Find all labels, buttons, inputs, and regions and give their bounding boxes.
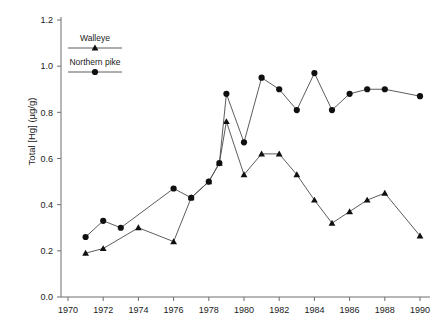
legend-swatch-pike-circle-icon	[92, 69, 98, 75]
data-point-marker	[206, 178, 212, 184]
x-axis-tick-label: 1974	[128, 305, 148, 315]
series-walleye	[82, 118, 423, 256]
x-axis-tick-label: 1990	[410, 305, 430, 315]
data-point-marker	[347, 91, 353, 97]
data-point-marker	[364, 197, 371, 203]
data-point-marker	[294, 107, 300, 113]
series-line	[86, 73, 420, 237]
x-axis-tick-labels: 1970197219741976197819801982198419861988…	[58, 305, 430, 315]
plot-area: 0.00.20.40.60.81.01.2 197019721974197619…	[0, 0, 443, 332]
data-point-marker	[100, 218, 106, 224]
data-point-marker	[276, 86, 282, 92]
x-axis-tick-label: 1976	[164, 305, 184, 315]
data-point-marker	[188, 195, 194, 201]
data-point-marker	[364, 86, 370, 92]
y-axis-tick-label: 0.8	[40, 108, 53, 118]
x-axis-tick-label: 1984	[304, 305, 324, 315]
x-axis-ticks	[68, 297, 420, 301]
chart-legend: Walleye Northern pike	[68, 33, 122, 75]
y-axis-tick-label: 0.0	[40, 292, 53, 302]
data-point-marker	[100, 245, 107, 251]
y-axis-ticks	[57, 20, 61, 297]
data-point-marker	[170, 238, 177, 244]
data-point-marker	[83, 234, 89, 240]
series-northern-pike	[83, 70, 424, 240]
data-point-marker	[259, 75, 265, 81]
legend-label-walleye: Walleye	[80, 33, 110, 43]
y-axis-tick-label: 1.0	[40, 61, 53, 71]
mercury-trend-chart: Total [Hg] (µg/g) 0.00.20.40.60.81.01.2 …	[0, 0, 443, 332]
y-axis-tick-labels: 0.00.20.40.60.81.01.2	[40, 15, 53, 302]
y-axis-tick-label: 1.2	[40, 15, 53, 25]
y-axis-tick-label: 0.4	[40, 200, 53, 210]
data-point-marker	[216, 160, 222, 166]
data-point-marker	[118, 225, 124, 231]
data-point-marker	[417, 93, 423, 99]
x-axis-tick-label: 1986	[340, 305, 360, 315]
data-point-marker	[135, 224, 142, 230]
data-point-marker	[329, 107, 335, 113]
data-point-marker	[346, 208, 353, 214]
series-line	[86, 122, 420, 254]
x-axis-tick-label: 1988	[375, 305, 395, 315]
data-point-marker	[382, 86, 388, 92]
data-point-marker	[241, 139, 247, 145]
y-axis-tick-label: 0.6	[40, 154, 53, 164]
data-point-marker	[311, 70, 317, 76]
y-axis-tick-label: 0.2	[40, 246, 53, 256]
x-axis-tick-label: 1970	[58, 305, 78, 315]
x-axis-tick-label: 1978	[199, 305, 219, 315]
data-point-marker	[381, 190, 388, 196]
data-point-marker	[311, 197, 318, 203]
x-axis-tick-label: 1982	[269, 305, 289, 315]
data-point-marker	[171, 185, 177, 191]
legend-label-northern-pike: Northern pike	[69, 57, 120, 67]
data-point-marker	[223, 91, 229, 97]
data-series-layer	[82, 70, 423, 256]
x-axis-tick-label: 1972	[93, 305, 113, 315]
x-axis-tick-label: 1980	[234, 305, 254, 315]
